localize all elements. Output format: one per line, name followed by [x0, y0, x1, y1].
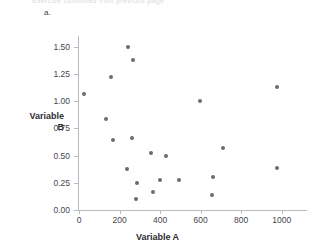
data-point	[134, 197, 138, 201]
data-point	[177, 178, 181, 182]
data-point	[275, 85, 279, 89]
data-point	[210, 193, 214, 197]
data-point	[109, 75, 113, 79]
figure-page: Exercise continued from previous page a.…	[0, 0, 315, 251]
data-point	[82, 92, 86, 96]
data-point	[111, 138, 115, 142]
data-point	[104, 117, 108, 121]
data-point	[151, 190, 155, 194]
data-point	[130, 136, 134, 140]
data-point	[164, 154, 168, 158]
data-point	[149, 151, 153, 155]
data-point	[126, 45, 130, 49]
y-axis-title-line: B	[4, 122, 64, 133]
y-axis-title: VariableB	[4, 111, 64, 133]
data-point	[131, 58, 135, 62]
x-axis-title: Variable A	[0, 232, 315, 242]
data-point	[198, 99, 202, 103]
data-point	[221, 146, 225, 150]
data-point	[211, 175, 215, 179]
data-point	[125, 167, 129, 171]
data-point	[135, 181, 139, 185]
data-point	[275, 166, 279, 170]
data-point	[158, 178, 162, 182]
y-axis-title-line: Variable	[4, 111, 64, 122]
